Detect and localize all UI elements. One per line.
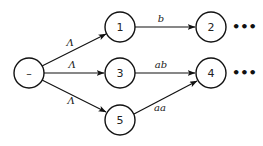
- ellipsis-after-2-icon: •••: [232, 19, 257, 34]
- node-start: –: [14, 58, 44, 88]
- node-2-label: 2: [208, 21, 215, 34]
- node-5-label: 5: [117, 114, 124, 127]
- edge-label-3-4: ab: [155, 59, 167, 70]
- ellipsis-after-4-icon: •••: [232, 65, 257, 80]
- edge-label-start-3: Λ: [67, 59, 75, 70]
- edge-label-start-1: Λ: [65, 37, 73, 48]
- node-3: 3: [105, 58, 135, 88]
- state-diagram: Λ Λ Λ b ab aa – 1 3 5 2 4 •••: [0, 0, 263, 146]
- edge-label-5-4: aa: [154, 102, 166, 113]
- node-4-label: 4: [208, 67, 215, 80]
- edge-label-start-5: Λ: [66, 95, 74, 106]
- node-4: 4: [196, 58, 226, 88]
- node-2: 2: [196, 12, 226, 42]
- node-start-label: –: [26, 67, 32, 80]
- node-5: 5: [105, 105, 135, 135]
- node-3-label: 3: [117, 67, 124, 80]
- edge-label-1-2: b: [158, 13, 164, 24]
- node-1: 1: [105, 12, 135, 42]
- node-1-label: 1: [117, 21, 124, 34]
